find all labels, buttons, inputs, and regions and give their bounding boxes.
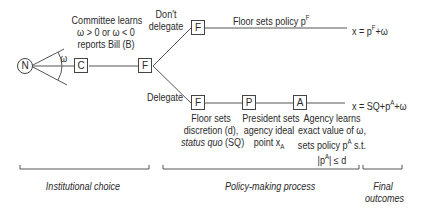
committee-line-2: ω > 0 or ω < 0 bbox=[72, 26, 141, 38]
agency-description: Agency learns exact value of ω, sets pol… bbox=[298, 112, 367, 165]
agency-node: A bbox=[293, 95, 307, 110]
committee-line-3: reports Bill (B) bbox=[72, 38, 141, 50]
delegate-label: Delegate bbox=[145, 91, 185, 103]
committee-node: C bbox=[74, 58, 88, 73]
dont-delegate-label: Don't delegate bbox=[147, 8, 185, 32]
president-line-2: agency ideal bbox=[242, 124, 295, 136]
floor-sets-policy-label: Floor sets policy pF bbox=[233, 12, 309, 27]
floor-discretion-line-1: Floor sets bbox=[181, 112, 241, 124]
president-description: President sets agency ideal point xA bbox=[242, 112, 295, 153]
floor-discretion-line-2: discretion (d), bbox=[181, 124, 241, 136]
president-line-1: President sets bbox=[242, 112, 295, 124]
phase-institutional-choice: Institutional choice bbox=[44, 180, 121, 192]
floor-discretion-line-3: status quo (SQ) bbox=[181, 136, 241, 148]
nature-node: N bbox=[17, 58, 33, 74]
agency-line-1: Agency learns bbox=[298, 112, 367, 124]
outcome-no-delegate: x = pF+ω bbox=[352, 22, 388, 37]
floor-node-no-delegate: F bbox=[191, 20, 205, 35]
dont-delegate-line-2: delegate bbox=[147, 20, 185, 32]
agency-line-3: sets policy pA s.t. bbox=[298, 136, 367, 151]
floor-discretion-description: Floor sets discretion (d), status quo (S… bbox=[181, 112, 241, 148]
president-line-3: point xA bbox=[242, 136, 295, 153]
floor-node-initial: F bbox=[138, 58, 152, 73]
president-node: P bbox=[242, 95, 256, 110]
omega-label: ω bbox=[61, 53, 68, 65]
agency-line-4: |pA| ≤ d bbox=[298, 151, 367, 166]
committee-description: Committee learns ω > 0 or ω < 0 reports … bbox=[72, 14, 141, 50]
phase-final-outcomes: Final outcomes bbox=[365, 180, 401, 204]
final-line-2: outcomes bbox=[365, 192, 401, 204]
dont-delegate-line-1: Don't bbox=[147, 8, 185, 20]
committee-line-1: Committee learns bbox=[72, 14, 141, 26]
phase-policy-making: Policy-making process bbox=[225, 180, 311, 192]
outcome-delegate: x = SQ+pA+ω bbox=[352, 97, 407, 112]
floor-node-delegate: F bbox=[191, 95, 205, 110]
agency-line-2: exact value of ω, bbox=[298, 124, 367, 136]
final-line-1: Final bbox=[365, 180, 401, 192]
